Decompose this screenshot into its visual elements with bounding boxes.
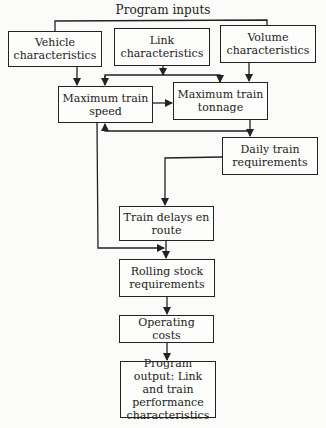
node-link-characteristics: Link characteristics — [114, 28, 210, 66]
node-rolling-stock-requirements: Rolling stock requirements — [119, 259, 215, 297]
node-vehicle-characteristics: Vehicle characteristics — [8, 31, 102, 67]
node-operating-costs: Operating costs — [119, 315, 214, 343]
program-inputs-label: Program inputs — [0, 3, 326, 17]
node-train-delays-en-route: Train delays en route — [119, 206, 214, 241]
node-program-output: Program output: Link and train performan… — [120, 361, 216, 418]
node-maximum-train-speed: Maximum train speed — [58, 86, 153, 123]
node-maximum-train-tonnage: Maximum train tonnage — [173, 82, 268, 120]
node-daily-train-requirements: Daily train requirements — [222, 137, 318, 175]
node-volume-characteristics: Volume characteristics — [220, 25, 316, 63]
